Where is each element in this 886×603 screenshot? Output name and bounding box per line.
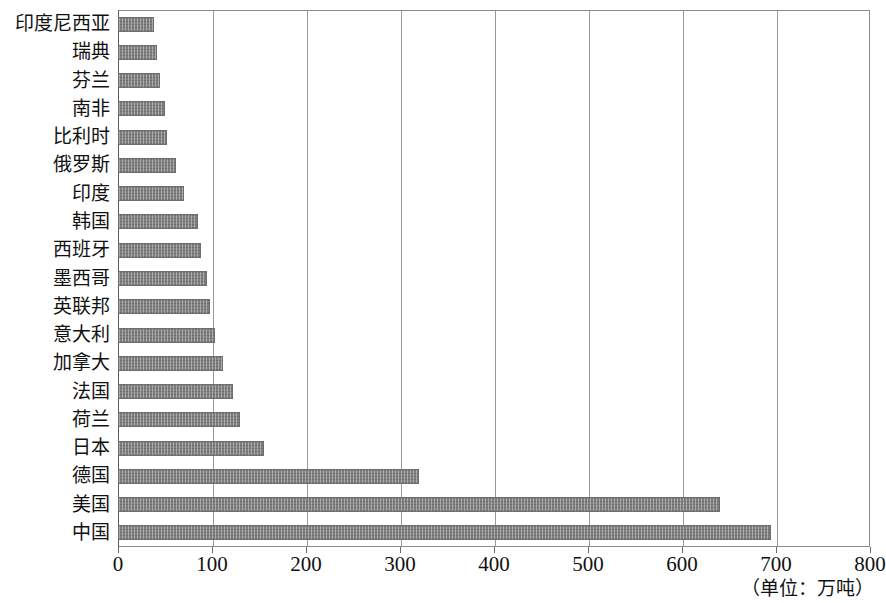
bar (118, 214, 198, 229)
bar (118, 45, 157, 60)
x-axis-tick (118, 547, 119, 553)
category-label: 芬兰 (72, 71, 110, 90)
category-label: 荷兰 (72, 410, 110, 429)
x-axis-tick-label: 600 (666, 552, 698, 576)
category-label: 印度 (72, 184, 110, 203)
bar (118, 328, 215, 343)
x-axis-tick (212, 547, 213, 553)
bar-series (118, 10, 870, 547)
x-axis-tick (682, 547, 683, 553)
category-label: 法国 (72, 382, 110, 401)
bar (118, 412, 240, 427)
bar (118, 469, 419, 484)
category-label: 瑞典 (72, 42, 110, 61)
unit-annotation: （单位：万吨） (741, 578, 874, 600)
bar (118, 130, 167, 145)
bar (118, 17, 154, 32)
x-axis-tick-label: 500 (572, 552, 604, 576)
chart-page: 印度尼西亚瑞典芬兰南非比利时俄罗斯印度韩国西班牙墨西哥英联邦意大利加拿大法国荷兰… (0, 0, 886, 603)
value-axis-labels: 0100200300400500600700800 (0, 552, 886, 580)
category-label: 西班牙 (53, 240, 110, 259)
category-label: 德国 (72, 466, 110, 485)
bar (118, 243, 201, 258)
category-label: 日本 (72, 438, 110, 457)
bar (118, 158, 176, 173)
bar (118, 441, 264, 456)
bar (118, 497, 720, 512)
x-axis-tick (494, 547, 495, 553)
x-axis-tick-label: 800 (854, 552, 886, 576)
x-axis-tick (776, 547, 777, 553)
bar (118, 356, 223, 371)
bar (118, 73, 160, 88)
category-label: 加拿大 (53, 353, 110, 372)
x-axis-tick (400, 547, 401, 553)
category-label: 俄罗斯 (53, 155, 110, 174)
bar (118, 525, 771, 540)
x-axis-tick-label: 200 (290, 552, 322, 576)
x-axis-tick-label: 100 (196, 552, 228, 576)
category-label: 韩国 (72, 212, 110, 231)
category-axis-labels: 印度尼西亚瑞典芬兰南非比利时俄罗斯印度韩国西班牙墨西哥英联邦意大利加拿大法国荷兰… (0, 10, 114, 547)
category-label: 南非 (72, 99, 110, 118)
bar (118, 186, 184, 201)
category-label: 美国 (72, 495, 110, 514)
category-label: 英联邦 (53, 297, 110, 316)
x-axis-tick (588, 547, 589, 553)
x-axis-tick-label: 300 (384, 552, 416, 576)
x-axis-tick-label: 400 (478, 552, 510, 576)
category-label: 比利时 (53, 127, 110, 146)
bar (118, 384, 233, 399)
category-label: 中国 (72, 523, 110, 542)
bar (118, 299, 210, 314)
bar (118, 271, 207, 286)
bar (118, 101, 165, 116)
x-axis-tick-label: 700 (760, 552, 792, 576)
x-axis-tick-label: 0 (113, 552, 124, 576)
x-axis-tick (306, 547, 307, 553)
category-label: 印度尼西亚 (15, 14, 110, 33)
category-label: 墨西哥 (53, 269, 110, 288)
category-label: 意大利 (53, 325, 110, 344)
x-axis-tick (870, 547, 871, 553)
